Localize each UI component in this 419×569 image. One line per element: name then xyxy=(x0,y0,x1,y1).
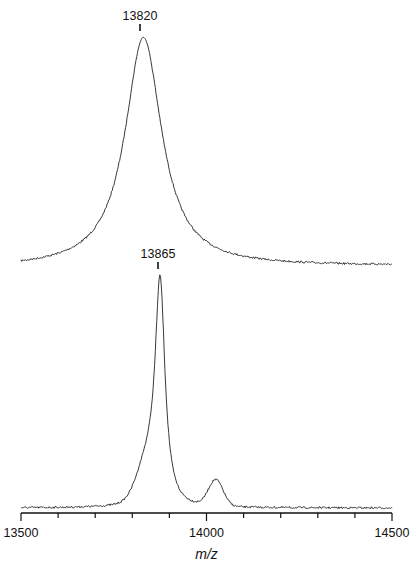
x-tick-label-14000: 14000 xyxy=(189,526,224,540)
mass-spectrum-chart: 13820 13865 13500 14000 14500 m/z xyxy=(0,0,419,569)
upper-spectrum-trace xyxy=(21,37,392,265)
x-axis: 13500 14000 14500 m/z xyxy=(4,513,410,562)
upper-spectrum: 13820 xyxy=(21,9,392,265)
x-axis-title: m/z xyxy=(195,546,218,562)
x-axis-ticks xyxy=(21,513,392,521)
x-tick-label-14500: 14500 xyxy=(375,526,410,540)
lower-peak-label: 13865 xyxy=(141,247,176,261)
lower-spectrum: 13865 xyxy=(21,247,392,509)
upper-peak-label: 13820 xyxy=(123,9,158,23)
x-tick-label-13500: 13500 xyxy=(4,526,39,540)
lower-spectrum-trace xyxy=(21,275,392,509)
